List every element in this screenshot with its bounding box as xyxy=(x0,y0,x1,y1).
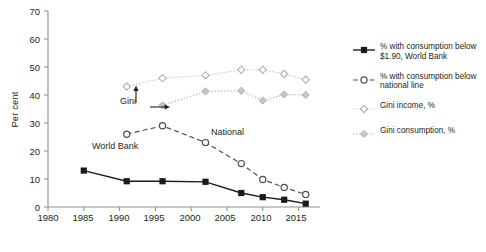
legend-label: Gini consumption, % xyxy=(380,126,455,136)
series-3 xyxy=(123,66,309,90)
series-1 xyxy=(81,168,309,207)
legend-label: % with consumption below national line xyxy=(380,72,476,92)
legend-marker-filled-diamond-icon xyxy=(352,127,376,141)
annotation-arrows xyxy=(133,86,170,110)
gini-up-arrow-head xyxy=(133,86,138,92)
chart-figure: Per cent 70 60 50 40 30 20 10 0 1980 198… xyxy=(0,0,486,252)
data-series-layer xyxy=(81,66,310,207)
legend-item-4[interactable]: Gini consumption, % xyxy=(352,126,486,141)
series-4 xyxy=(159,87,309,109)
legend-item-1[interactable]: % with consumption below $1.90, World Ba… xyxy=(352,42,486,62)
gini-right-arrow-head xyxy=(165,104,171,109)
legend-marker-open-circle-icon xyxy=(352,73,376,87)
annotation-world-bank: World Bank xyxy=(92,141,138,151)
legend-item-3[interactable]: Gini income, % xyxy=(352,101,486,116)
x-tick-marks xyxy=(48,207,299,211)
y-tick-marks xyxy=(44,11,48,207)
legend-label: Gini income, % xyxy=(380,101,435,111)
legend-label: % with consumption below $1.90, World Ba… xyxy=(380,42,476,62)
legend-marker-open-diamond-icon xyxy=(352,102,376,116)
annotation-national: National xyxy=(211,127,244,137)
legend-marker-filled-square-icon xyxy=(352,43,376,57)
legend-item-2[interactable]: % with consumption below national line xyxy=(352,72,486,92)
annotation-gini: Gini xyxy=(120,96,136,106)
chart-legend: % with consumption below $1.90, World Ba… xyxy=(352,42,486,151)
